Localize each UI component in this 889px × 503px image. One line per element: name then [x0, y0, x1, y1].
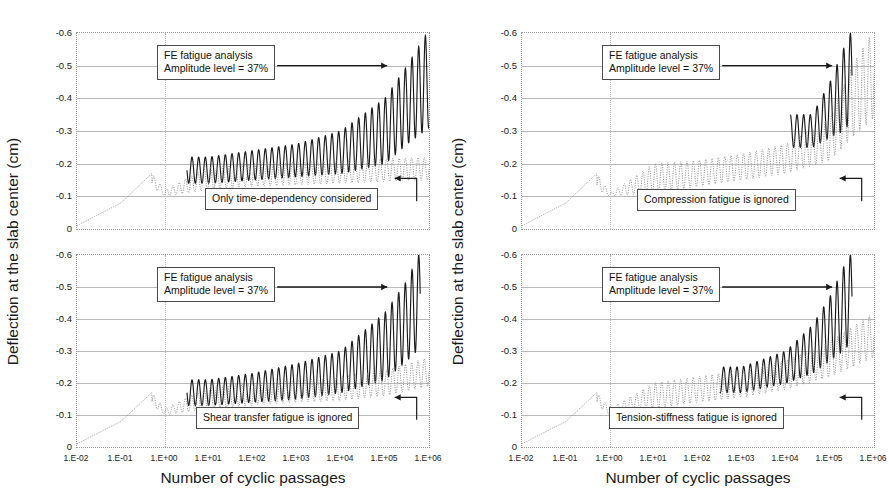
y-tick-label: -0.4: [501, 92, 517, 103]
callout-fe-fatigue-top-right: FE fatigue analysis Amplitude level = 37…: [602, 45, 720, 80]
y-tick-label: -0.3: [501, 345, 517, 356]
callout-line-1: FE fatigue analysis: [164, 271, 268, 284]
callout-line-1: FE fatigue analysis: [609, 49, 713, 62]
x-tick-label: 1.E+02: [238, 453, 265, 463]
y-tick-label: -0.2: [56, 157, 72, 168]
y-tick-label: -0.3: [56, 345, 72, 356]
callout-line-2: Amplitude level = 37%: [164, 62, 268, 75]
y-tick-label: -0.5: [501, 59, 517, 70]
y-tick-label: 0: [512, 441, 517, 452]
x-tick-label: 1.E+01: [194, 453, 221, 463]
x-tick-label: 1.E+03: [727, 453, 754, 463]
y-tick-label: -0.6: [56, 27, 72, 38]
arrowhead-secondary: [840, 394, 846, 400]
x-tick-label: 1.E+05: [815, 453, 842, 463]
y-tick-label: -0.3: [501, 125, 517, 136]
x-tick-label: 1.E+01: [639, 453, 666, 463]
x-tick-label: 1.E+05: [370, 453, 397, 463]
leader-line-secondary: [395, 397, 417, 419]
y-tick-label: -0.1: [501, 190, 517, 201]
panel-bottom-left: -0.6-0.5-0.4-0.3-0.2-0.10 FE fatigue ana…: [0, 250, 444, 503]
y-tick-label: -0.6: [501, 249, 517, 260]
x-tick-label: 1.E+03: [282, 453, 309, 463]
y-tick-label: 0: [512, 223, 517, 234]
left-half: Deflection at the slab center (cm) -0.6-…: [0, 0, 444, 503]
arrowhead-main: [826, 284, 832, 290]
x-tick-labels-right: 1.E-021.E-011.E+001.E+011.E+021.E+031.E+…: [521, 453, 875, 469]
callout-secondary-bottom-right: Tension-stiffness fatigue is ignored: [609, 407, 784, 429]
y-tick-label: -0.5: [56, 281, 72, 292]
y-tick-labels-top-right: -0.6-0.5-0.4-0.3-0.2-0.10: [471, 0, 517, 250]
x-tick-label: 1.E+00: [595, 453, 622, 463]
four-panel-fatigue-figure: Deflection at the slab center (cm) -0.6-…: [0, 0, 889, 503]
y-tick-labels-bottom-right: -0.6-0.5-0.4-0.3-0.2-0.10: [471, 250, 517, 460]
right-half: Deflection at the slab center (cm) -0.6-…: [445, 0, 889, 503]
y-tick-label: -0.1: [56, 409, 72, 420]
callout-secondary-bottom-left: Shear transfer fatigue is ignored: [196, 407, 359, 429]
callout-line-2: Amplitude level = 37%: [609, 284, 713, 297]
x-tick-label: 1.E+04: [326, 453, 353, 463]
callout-line-1: FE fatigue analysis: [609, 271, 713, 284]
arrowhead-secondary: [395, 175, 401, 181]
panel-top-right: -0.6-0.5-0.4-0.3-0.2-0.10 FE fatigue ana…: [445, 0, 889, 250]
y-tick-label: 0: [67, 441, 72, 452]
y-tick-label: -0.1: [56, 190, 72, 201]
x-tick-label: 1.E+04: [771, 453, 798, 463]
callout-secondary-top-left: Only time-dependency considered: [205, 188, 378, 210]
arrowhead-main: [826, 62, 832, 68]
y-tick-label: -0.1: [501, 409, 517, 420]
leader-line-secondary: [395, 178, 417, 201]
x-axis-title-right: Number of cyclic passages: [521, 469, 875, 487]
y-tick-label: 0: [67, 223, 72, 234]
x-tick-labels-left: 1.E-021.E-011.E+001.E+011.E+021.E+031.E+…: [76, 453, 430, 469]
x-tick-label: 1.E+02: [683, 453, 710, 463]
y-tick-label: -0.4: [56, 313, 72, 324]
y-tick-label: -0.4: [501, 313, 517, 324]
x-tick-label: 1.E+00: [150, 453, 177, 463]
x-tick-label: 1.E-01: [107, 453, 132, 463]
y-tick-label: -0.5: [501, 281, 517, 292]
y-tick-label: -0.2: [501, 157, 517, 168]
arrowhead-main: [381, 284, 387, 290]
x-tick-label: 1.E+06: [859, 453, 886, 463]
callout-fe-fatigue-bottom-left: FE fatigue analysis Amplitude level = 37…: [157, 267, 275, 302]
x-tick-label: 1.E-02: [63, 453, 88, 463]
y-tick-label: -0.6: [56, 249, 72, 260]
x-tick-label: 1.E+06: [414, 453, 441, 463]
callout-secondary-top-right: Compression fatigue is ignored: [637, 189, 796, 211]
y-tick-label: -0.2: [56, 377, 72, 388]
y-tick-label: -0.4: [56, 92, 72, 103]
x-axis-title-left: Number of cyclic passages: [76, 469, 430, 487]
arrowhead-secondary: [840, 175, 846, 181]
leader-line-secondary: [840, 397, 862, 419]
leader-line-secondary: [840, 178, 862, 201]
panel-top-left: -0.6-0.5-0.4-0.3-0.2-0.10 FE fatigue ana…: [0, 0, 444, 250]
y-tick-labels-bottom-left: -0.6-0.5-0.4-0.3-0.2-0.10: [26, 250, 72, 460]
callout-line-2: Amplitude level = 37%: [609, 62, 713, 75]
y-tick-label: -0.5: [56, 59, 72, 70]
y-tick-label: -0.3: [56, 125, 72, 136]
y-tick-labels-top-left: -0.6-0.5-0.4-0.3-0.2-0.10: [26, 0, 72, 250]
callout-line-1: FE fatigue analysis: [164, 49, 268, 62]
y-tick-label: -0.6: [501, 27, 517, 38]
x-tick-label: 1.E-02: [508, 453, 533, 463]
arrowhead-main: [381, 62, 387, 68]
panel-bottom-right: -0.6-0.5-0.4-0.3-0.2-0.10 FE fatigue ana…: [445, 250, 889, 503]
arrowhead-secondary: [395, 394, 401, 400]
y-tick-label: -0.2: [501, 377, 517, 388]
x-tick-label: 1.E-01: [552, 453, 577, 463]
callout-line-2: Amplitude level = 37%: [164, 284, 268, 297]
callout-fe-fatigue-bottom-right: FE fatigue analysis Amplitude level = 37…: [602, 267, 720, 302]
callout-fe-fatigue-top-left: FE fatigue analysis Amplitude level = 37…: [157, 45, 275, 80]
